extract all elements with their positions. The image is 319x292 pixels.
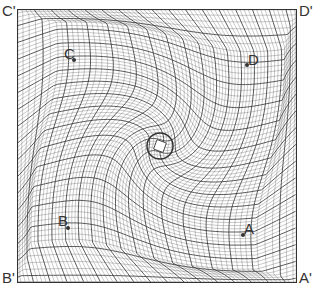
corner-label-c-prime: C' — [2, 3, 16, 18]
point-marker-a — [241, 233, 245, 237]
corner-label-b-prime: B' — [2, 270, 15, 285]
corner-label-d-prime: D' — [299, 3, 313, 18]
point-marker-b — [66, 226, 70, 230]
point-marker-c — [72, 58, 76, 62]
point-label-d: D — [248, 52, 259, 67]
point-marker-d — [245, 63, 249, 67]
corner-label-a-prime: A' — [299, 270, 312, 285]
point-label-a: A — [244, 221, 254, 236]
